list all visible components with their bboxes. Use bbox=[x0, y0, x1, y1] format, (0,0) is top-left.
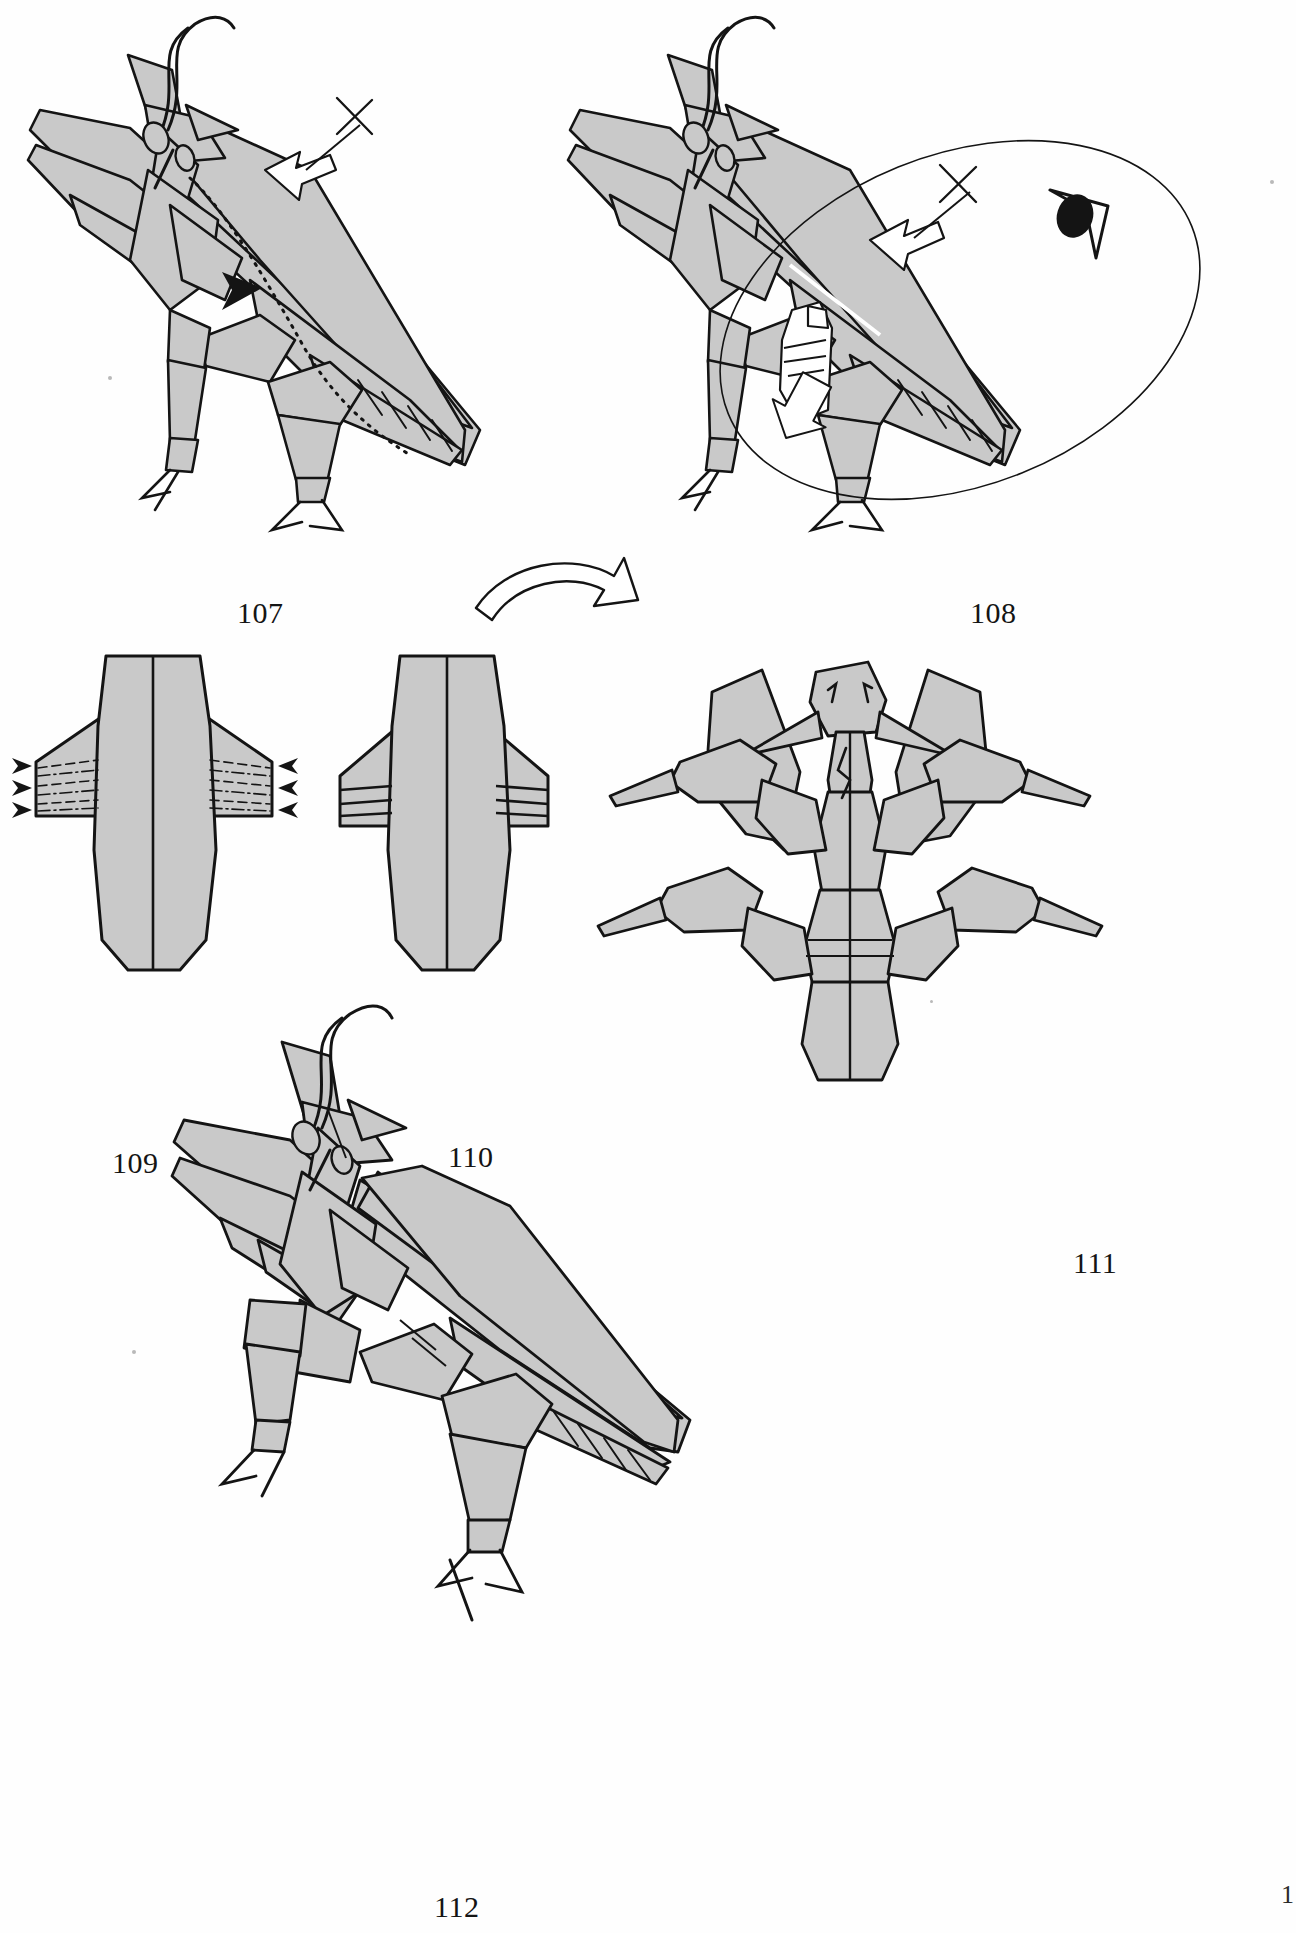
pleat-arrowhead-left-icon bbox=[12, 758, 32, 818]
figure-107-caption: 107 bbox=[237, 598, 284, 628]
figure-112-caption: 112 bbox=[434, 1892, 479, 1922]
x-mark-icon bbox=[940, 165, 976, 202]
eye-icon bbox=[1050, 190, 1108, 258]
figure-112-diagram bbox=[150, 1000, 750, 1620]
scan-speck bbox=[1270, 180, 1274, 184]
page-number: 1 bbox=[1281, 1880, 1294, 1910]
figure-108-caption: 108 bbox=[970, 598, 1017, 628]
scan-speck bbox=[930, 1000, 933, 1003]
figure-108-diagram bbox=[540, 10, 1280, 570]
scan-speck bbox=[132, 1350, 136, 1354]
origami-page: 107 bbox=[0, 0, 1296, 1933]
scan-speck bbox=[108, 376, 112, 380]
figure-111-caption: 111 bbox=[1073, 1248, 1117, 1278]
figure-107-diagram bbox=[10, 10, 530, 570]
pleat-arrowhead-right-icon bbox=[278, 758, 298, 818]
